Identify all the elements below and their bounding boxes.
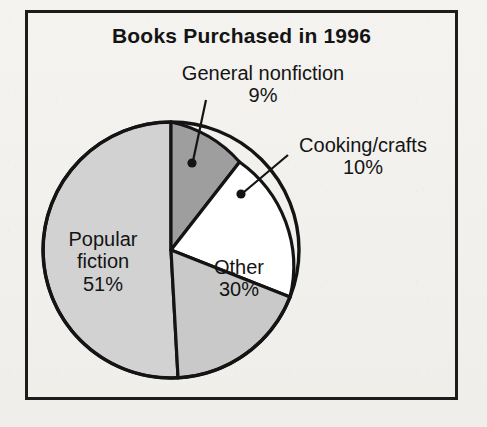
slice-label-other: Other 30% (186, 256, 292, 301)
leader-dot-general-nonfiction (187, 158, 196, 167)
leader-dot-cooking-crafts (236, 189, 245, 198)
slice-label-popular-fiction: Popular fiction 51% (42, 228, 164, 295)
slice-label-cooking-crafts: Cooking/crafts 10% (268, 134, 458, 179)
slice-label-general-nonfiction: General nonfiction 9% (148, 62, 378, 107)
